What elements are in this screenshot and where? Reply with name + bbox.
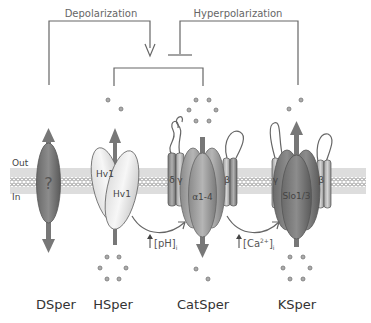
beta-label: β — [224, 175, 230, 185]
hsper-catsper-bracket — [114, 68, 203, 86]
depolarization-bracket — [49, 21, 155, 85]
dsper-channel: ? — [37, 128, 61, 253]
ksper-channel: γ β Slo1/3 — [270, 121, 332, 247]
hyperpolarization-bracket — [168, 21, 298, 85]
delta-label: δ — [169, 175, 175, 185]
catsper-name: CatSper — [177, 297, 230, 312]
ph-annotation: [pH]i — [147, 234, 178, 251]
ca-annotation: [Ca2+]i — [236, 234, 275, 251]
ph-label: [pH] — [154, 238, 176, 249]
up-arrow-icon — [42, 128, 55, 142]
svg-text:[pH]i: [pH]i — [154, 238, 178, 251]
up-arrow-icon — [290, 121, 303, 135]
svg-text:[Ca2+]i: [Ca2+]i — [243, 237, 275, 251]
catsper-channel: δ γ β α1-4 — [168, 117, 243, 258]
depolarization-label: Depolarization — [65, 8, 138, 19]
ksper-name: KSper — [278, 297, 317, 312]
in-label: In — [12, 192, 20, 202]
ca-label: [Ca — [243, 238, 260, 249]
down-arrow-icon — [196, 244, 209, 258]
hv1-label-1: Hv1 — [96, 169, 114, 179]
up-arrow-icon — [109, 128, 121, 143]
alpha-label: α1-4 — [192, 192, 213, 202]
dsper-name: DSper — [36, 297, 77, 312]
ph-arrow — [132, 216, 185, 233]
dsper-unknown-label: ? — [44, 174, 53, 193]
hyperpolarization-label: Hyperpolarization — [194, 8, 283, 19]
sperm-ion-channel-diagram: Depolarization Hyperpolarization Out In — [0, 0, 371, 323]
gamma-label: γ — [273, 175, 279, 185]
hv1-label-2: Hv1 — [113, 189, 131, 199]
gamma-label: γ — [177, 175, 183, 185]
hsper-channel: Hv1 Hv1 — [85, 128, 145, 245]
slo-label: Slo1/3 — [282, 191, 310, 201]
out-label: Out — [12, 158, 29, 168]
down-arrow-icon — [42, 239, 55, 253]
beta-label: β — [318, 175, 324, 185]
hsper-name: HSper — [93, 297, 133, 312]
ca-arrow — [227, 216, 279, 233]
